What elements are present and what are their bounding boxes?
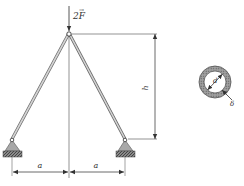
section-thickness-label: δ	[230, 100, 234, 108]
force-vector-mark: →	[79, 6, 84, 13]
span-left-label: a	[38, 161, 43, 170]
truss-diagram: 2F → h a a	[0, 0, 244, 186]
left-bar	[12, 35, 68, 139]
top-pin	[67, 32, 71, 36]
right-support	[116, 138, 135, 157]
section-diameter-label: d	[213, 77, 218, 85]
height-label: h	[141, 85, 150, 90]
span-right-label: a	[94, 161, 99, 170]
right-bar	[70, 35, 125, 139]
left-support	[3, 138, 22, 157]
